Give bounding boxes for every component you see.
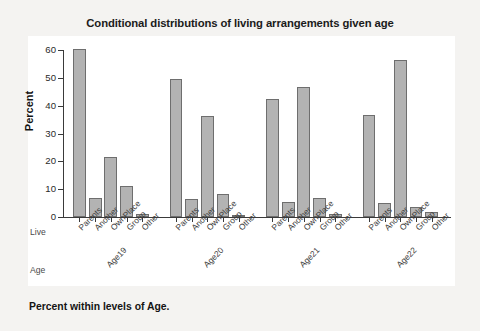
bar [394, 60, 407, 217]
bar [266, 99, 279, 217]
bar [363, 115, 376, 217]
chart-figure: Conditional distributions of living arra… [0, 0, 480, 331]
y-tick-mark [58, 161, 64, 162]
y-tick-label: 30 [4, 129, 56, 139]
bar [297, 87, 310, 217]
y-tick-mark [58, 50, 64, 51]
y-tick-mark [58, 189, 64, 190]
bar [201, 116, 214, 217]
bar [170, 79, 183, 217]
y-tick-label: 50 [4, 73, 56, 83]
y-tick-label: 20 [4, 157, 56, 167]
chart-title: Conditional distributions of living arra… [0, 17, 480, 29]
y-tick-label: 10 [4, 184, 56, 194]
y-tick-label: 40 [4, 101, 56, 111]
y-tick-mark [58, 134, 64, 135]
footer-note: Percent within levels of Age. [29, 301, 170, 312]
y-tick-mark [58, 106, 64, 107]
y-axis-tick-labels: 0102030405060 [0, 0, 56, 331]
y-tick-mark [58, 78, 64, 79]
y-tick-label: 60 [4, 45, 56, 55]
plot-panel [28, 36, 455, 286]
y-tick-mark [58, 217, 64, 218]
row-header-age: Age [30, 265, 45, 275]
y-tick-label: 0 [4, 212, 56, 222]
bar [73, 49, 86, 217]
row-header-live: Live [30, 227, 46, 237]
